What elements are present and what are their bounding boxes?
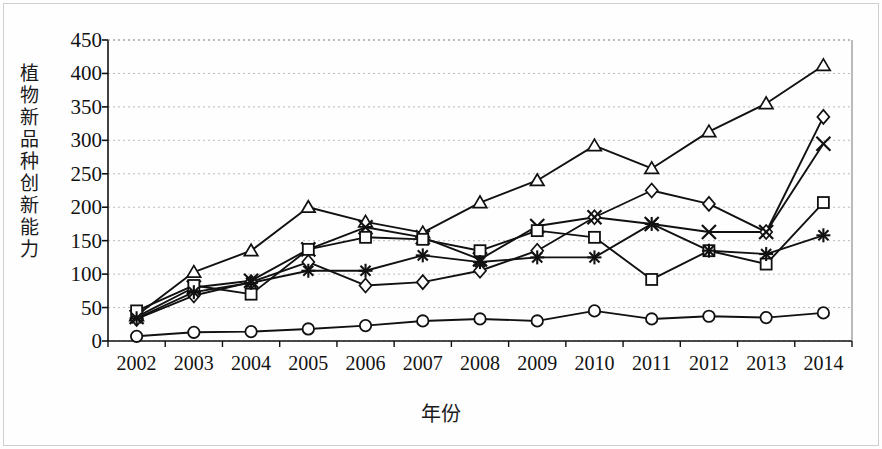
- marker-square: [303, 244, 314, 255]
- marker-triangle: [645, 162, 659, 174]
- marker-triangle: [473, 196, 487, 208]
- x-tick-label: 2006: [346, 352, 386, 375]
- marker-circle: [646, 313, 657, 324]
- marker-triangle: [187, 266, 201, 278]
- x-tick-label: 2004: [231, 352, 271, 375]
- x-axis-tick-labels: 2002200320042005200620072008200920102011…: [0, 352, 882, 382]
- marker-square: [532, 225, 543, 236]
- marker-circle: [303, 323, 314, 334]
- x-tick-label: 2003: [174, 352, 214, 375]
- marker-triangle: [759, 97, 773, 109]
- marker-circle: [417, 315, 428, 326]
- marker-circle: [703, 311, 714, 322]
- marker-square: [646, 274, 657, 285]
- marker-triangle: [588, 139, 602, 151]
- marker-circle: [818, 307, 829, 318]
- marker-diamond: [417, 275, 429, 289]
- marker-square: [475, 245, 486, 256]
- x-axis-title: 年份: [0, 398, 882, 427]
- marker-diamond: [646, 184, 658, 198]
- marker-circle: [131, 331, 142, 342]
- x-tick-label: 2002: [117, 352, 157, 375]
- x-tick-label: 2009: [517, 352, 557, 375]
- x-tick-label: 2013: [746, 352, 786, 375]
- series-line-cross-x: [137, 144, 824, 317]
- x-tick-label: 2010: [574, 352, 614, 375]
- marker-circle: [760, 312, 771, 323]
- marker-circle: [245, 326, 256, 337]
- marker-circle: [474, 313, 485, 324]
- marker-circle: [188, 327, 199, 338]
- x-tick-label: 2011: [632, 352, 671, 375]
- marker-square: [818, 197, 829, 208]
- marker-square: [417, 234, 428, 245]
- x-tick-label: 2005: [288, 352, 328, 375]
- series-line-diamond: [137, 117, 824, 319]
- series-cross-x: [137, 144, 824, 317]
- x-tick-label: 2008: [460, 352, 500, 375]
- chart-figure: 植物新品种创新能力 050100150200250300350400450 20…: [0, 0, 882, 449]
- x-tick-label: 2014: [803, 352, 843, 375]
- marker-diamond: [703, 197, 715, 211]
- marker-circle: [360, 320, 371, 331]
- series-diamond: [137, 117, 824, 319]
- marker-circle: [589, 305, 600, 316]
- marker-triangle: [702, 125, 716, 136]
- series-markers-triangle: [130, 59, 830, 321]
- marker-diamond: [817, 110, 829, 124]
- series-markers-circle: [131, 305, 829, 342]
- marker-triangle: [817, 59, 831, 71]
- marker-circle: [532, 315, 543, 326]
- series-markers-diamond: [131, 110, 830, 326]
- marker-square: [360, 232, 371, 243]
- marker-square: [589, 232, 600, 243]
- marker-square: [246, 289, 257, 300]
- x-tick-label: 2012: [689, 352, 729, 375]
- marker-diamond: [360, 278, 372, 292]
- x-tick-label: 2007: [403, 352, 443, 375]
- marker-triangle: [302, 201, 316, 213]
- marker-triangle: [530, 174, 544, 186]
- series-markers-cross-x: [130, 137, 831, 324]
